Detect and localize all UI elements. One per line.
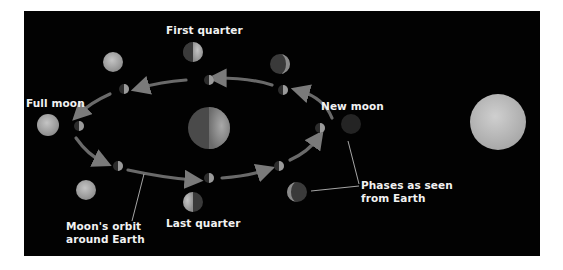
orbit-moon-new-icon bbox=[315, 123, 325, 133]
orbit-arrow-fm-to-wg2 bbox=[76, 138, 103, 162]
phase-waning-crescent-icon bbox=[287, 182, 307, 202]
orbit-moon-waxing-crescent-icon bbox=[278, 85, 288, 95]
leader-line-orbit bbox=[132, 174, 144, 221]
orbit-moon-last-quarter-icon bbox=[204, 173, 214, 183]
orbit-moon-waxing-gibbous-icon bbox=[119, 84, 129, 94]
orbit-moon-full-icon bbox=[74, 121, 84, 131]
orbit-arrow-lq-to-wc2 bbox=[222, 170, 266, 178]
orbit-arrow-fq-to-wg bbox=[140, 80, 186, 88]
orbit-arrow-wc2-to-nm bbox=[290, 138, 318, 160]
orbit-moon-waning-gibbous-icon bbox=[113, 161, 123, 171]
orbit-moon-first-quarter-icon bbox=[204, 75, 214, 85]
sun-icon bbox=[470, 94, 526, 150]
phase-waxing-crescent-icon bbox=[270, 54, 290, 74]
phase-waxing-gibbous-icon bbox=[103, 52, 123, 72]
label-full-moon: Full moon bbox=[26, 97, 85, 110]
label-phases-line2: from Earth bbox=[361, 192, 426, 205]
label-first-quarter: First quarter bbox=[166, 24, 243, 37]
label-new-moon: New moon bbox=[321, 100, 384, 113]
phase-last-quarter-icon bbox=[183, 192, 203, 212]
label-phases-line1: Phases as seen bbox=[361, 179, 453, 192]
orbit-moon-waning-crescent-icon bbox=[274, 161, 284, 171]
earth-icon bbox=[188, 107, 230, 149]
leader-line-phases-crescent bbox=[311, 186, 359, 191]
orbit-arrow-wc-to-fq bbox=[217, 78, 272, 85]
label-last-quarter: Last quarter bbox=[166, 217, 240, 230]
leader-lines bbox=[132, 141, 359, 221]
leader-line-phases-newmoon bbox=[348, 141, 359, 184]
label-orbit-line2: around Earth bbox=[66, 233, 145, 246]
phase-first-quarter-icon bbox=[183, 42, 203, 62]
label-orbit-line1: Moon's orbit bbox=[66, 220, 141, 233]
phase-new-moon-icon bbox=[341, 114, 361, 134]
orbit-arrow-wg2-to-lq bbox=[128, 170, 194, 180]
phase-full-moon-icon bbox=[37, 114, 59, 136]
phase-waning-gibbous-icon bbox=[76, 180, 96, 200]
